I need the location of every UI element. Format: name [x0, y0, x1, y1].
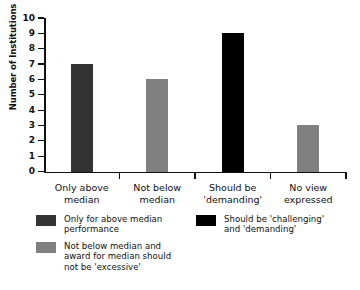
x-axis-category-label: Should be'demanding' [191, 182, 275, 205]
legend-swatch [36, 242, 56, 253]
legend-label-line: and 'demanding' [224, 224, 356, 234]
legend-label-line: Only for above median [64, 214, 186, 224]
chart-legend: Only for above medianperformanceNot belo… [0, 214, 360, 290]
x-axis-category-label-line: median [40, 194, 124, 206]
bar [71, 64, 93, 171]
bar [222, 33, 244, 171]
legend-label-line: not be 'excessive' [64, 262, 186, 272]
x-axis-category-label-line: No view [266, 182, 350, 194]
x-axis-separator [270, 172, 271, 179]
x-axis-category-label: Not belowmedian [115, 182, 199, 205]
x-axis-category-label-line: Not below [115, 182, 199, 194]
bar [297, 125, 319, 171]
plot-area: Number of Institutions 012345678910 Only… [0, 0, 360, 210]
x-axis-category-label-line: median [115, 194, 199, 206]
x-axis-separator [119, 172, 120, 179]
bar [146, 79, 168, 171]
legend-label: Only for above medianperformance [64, 214, 186, 235]
bars-layer [0, 18, 360, 172]
legend-label: Should be 'challenging'and 'demanding' [224, 214, 356, 235]
legend-label-line: Should be 'challenging' [224, 214, 356, 224]
legend-column-left: Only for above medianperformanceNot belo… [36, 214, 186, 278]
x-axis-separator [194, 172, 195, 179]
legend-item: Not below median andaward for median sho… [36, 241, 186, 272]
legend-label-line: award for median should [64, 251, 186, 261]
legend-item: Should be 'challenging'and 'demanding' [196, 214, 356, 235]
x-axis-category-label-line: Only above [40, 182, 124, 194]
x-axis-separator [345, 172, 346, 179]
legend-swatch [36, 215, 56, 226]
legend-column-right: Should be 'challenging'and 'demanding' [196, 214, 356, 241]
legend-item: Only for above medianperformance [36, 214, 186, 235]
legend-label-line: Not below median and [64, 241, 186, 251]
x-axis-category-label: No viewexpressed [266, 182, 350, 205]
legend-label: Not below median andaward for median sho… [64, 241, 186, 272]
x-axis-category-label-line: 'demanding' [191, 194, 275, 206]
x-axis-category-label-line: Should be [191, 182, 275, 194]
legend-label-line: performance [64, 224, 186, 234]
x-axis-category-label: Only abovemedian [40, 182, 124, 205]
legend-swatch [196, 215, 216, 226]
x-axis-category-label-line: expressed [266, 194, 350, 206]
bar-chart-figure: Number of Institutions 012345678910 Only… [0, 0, 360, 290]
